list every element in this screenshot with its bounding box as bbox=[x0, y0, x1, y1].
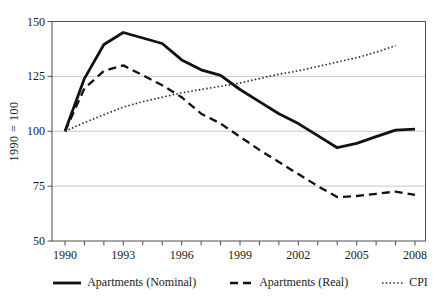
x-tick-label: 1996 bbox=[170, 248, 194, 262]
legend-label-nominal: Apartments (Nominal) bbox=[87, 275, 196, 290]
chart-svg: 1501251007550 19901993199619992002200520… bbox=[0, 0, 440, 303]
legend: Apartments (Nominal) Apartments (Real) C… bbox=[40, 275, 440, 290]
dashed-line-swatch-icon bbox=[230, 280, 254, 286]
y-axis-title: 1990 = 100 bbox=[7, 22, 22, 242]
legend-label-real: Apartments (Real) bbox=[259, 275, 348, 290]
y-tick-label: 50 bbox=[33, 234, 45, 248]
x-tick-label: 1993 bbox=[111, 248, 135, 262]
series-line-0 bbox=[65, 33, 415, 148]
x-tick-label: 2002 bbox=[286, 248, 310, 262]
y-tick-label: 150 bbox=[27, 15, 45, 29]
y-tick-label: 100 bbox=[27, 124, 45, 138]
gridlines bbox=[52, 76, 426, 186]
series-line-2 bbox=[65, 46, 396, 132]
legend-item-real: Apartments (Real) bbox=[230, 275, 348, 290]
y-tick-label: 125 bbox=[27, 69, 45, 83]
y-tick-label: 75 bbox=[33, 179, 45, 193]
series-lines bbox=[65, 33, 415, 198]
solid-line-swatch-icon bbox=[52, 280, 82, 286]
x-tick-label: 2005 bbox=[345, 248, 369, 262]
x-tick-label: 1999 bbox=[228, 248, 252, 262]
dotted-line-swatch-icon bbox=[382, 280, 404, 286]
legend-label-cpi: CPI bbox=[409, 275, 428, 290]
legend-item-cpi: CPI bbox=[382, 275, 428, 290]
legend-item-nominal: Apartments (Nominal) bbox=[52, 275, 196, 290]
x-axis-ticks: 1990199319961999200220052008 bbox=[53, 241, 427, 262]
x-tick-label: 1990 bbox=[53, 248, 77, 262]
chart-figure: 1990 = 100 1501251007550 199019931996199… bbox=[0, 0, 440, 303]
x-tick-label: 2008 bbox=[403, 248, 427, 262]
y-axis-ticks: 1501251007550 bbox=[27, 15, 52, 249]
